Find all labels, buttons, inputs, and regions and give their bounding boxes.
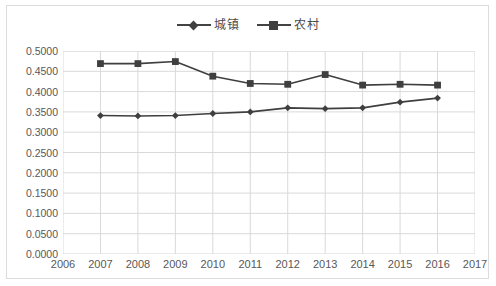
legend-label-urban: 城镇 [214, 19, 239, 31]
series-line [100, 62, 437, 86]
y-axis-tick-5: 0.2500 [6, 147, 58, 159]
chart-legend: 城镇 农村 [0, 14, 496, 36]
x-axis-tick-2015: 2015 [388, 258, 412, 270]
x-axis-tick-2016: 2016 [425, 258, 449, 270]
plot-area: 城镇 2007: 0.3410城镇 2008: 0.3400城镇 2009: 0… [63, 51, 475, 254]
data-point-marker: 城镇 2014: 0.3600 [359, 104, 366, 111]
x-axis-tick-2010: 2010 [201, 258, 225, 270]
data-point-marker: 农村 2013: 0.4420 [322, 71, 329, 78]
y-axis-tick-9: 0.4500 [6, 65, 58, 77]
legend-item-urban[interactable]: 城镇 [177, 19, 239, 31]
data-point-marker: 城镇 2008: 0.3400 [135, 113, 142, 120]
data-point-marker: 城镇 2007: 0.3410 [97, 112, 104, 119]
y-axis-tick-labels: 0.00000.05000.10000.15000.20000.25000.30… [6, 0, 58, 286]
data-point-marker: 城镇 2012: 0.3600 [284, 104, 291, 111]
data-point-marker: 城镇 2015: 0.3740 [397, 99, 404, 106]
data-point-marker: 农村 2008: 0.4690 [135, 60, 142, 67]
y-axis-tick-1: 0.0500 [6, 228, 58, 240]
data-point-marker: 农村 2007: 0.4690 [97, 60, 104, 67]
x-axis-tick-2017: 2017 [463, 258, 487, 270]
y-axis-tick-6: 0.3000 [6, 126, 58, 138]
data-point-marker: 农村 2014: 0.4160 [359, 82, 366, 89]
y-axis-tick-7: 0.3500 [6, 106, 58, 118]
x-axis-tick-2011: 2011 [238, 258, 262, 270]
series-line [100, 98, 437, 116]
data-point-marker: 农村 2010: 0.4380 [209, 73, 216, 80]
x-axis-tick-2014: 2014 [350, 258, 374, 270]
legend-label-rural: 农村 [294, 19, 319, 31]
x-axis-tick-2009: 2009 [163, 258, 187, 270]
y-axis-tick-4: 0.2000 [6, 167, 58, 179]
data-point-marker: 城镇 2009: 0.3410 [172, 112, 179, 119]
data-point-marker: 城镇 2011: 0.3500 [247, 109, 254, 116]
x-axis-tick-2012: 2012 [275, 258, 299, 270]
legend-diamond-marker-icon [177, 19, 211, 31]
data-point-marker: 农村 2015: 0.4180 [397, 81, 404, 88]
y-axis-tick-10: 0.5000 [6, 45, 58, 57]
y-axis-tick-3: 0.1500 [6, 187, 58, 199]
chart-plot-svg: 城镇 2007: 0.3410城镇 2008: 0.3400城镇 2009: 0… [63, 51, 475, 254]
legend-square-marker-icon [257, 19, 291, 31]
data-point-marker: 农村 2016: 0.4160 [434, 82, 441, 89]
legend-item-rural[interactable]: 农村 [257, 19, 319, 31]
data-point-marker: 农村 2012: 0.4180 [284, 81, 291, 88]
x-axis-tick-2007: 2007 [88, 258, 112, 270]
x-axis-tick-2013: 2013 [313, 258, 337, 270]
data-point-marker: 农村 2009: 0.4740 [172, 58, 179, 65]
x-axis-tick-2008: 2008 [126, 258, 150, 270]
data-point-marker: 城镇 2010: 0.3460 [209, 110, 216, 117]
series-urban: 城镇 2007: 0.3410城镇 2008: 0.3400城镇 2009: 0… [97, 95, 441, 120]
data-point-marker: 城镇 2013: 0.3580 [322, 105, 329, 112]
y-axis-tick-2: 0.1000 [6, 207, 58, 219]
x-axis-tick-2006: 2006 [51, 258, 75, 270]
chart-container: 城镇 农村 0.00000.05000.10000.15000.20000.25… [0, 0, 496, 286]
series-rural: 农村 2007: 0.4690农村 2008: 0.4690农村 2009: 0… [97, 58, 441, 88]
data-point-marker: 城镇 2016: 0.3840 [434, 95, 441, 102]
data-point-marker: 农村 2011: 0.4200 [247, 80, 254, 87]
x-axis-tick-labels: 2006200720082009201020112012201320142015… [0, 258, 496, 276]
y-axis-tick-8: 0.4000 [6, 86, 58, 98]
